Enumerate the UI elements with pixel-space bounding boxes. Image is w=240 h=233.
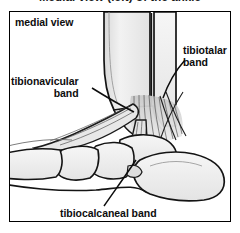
label-tibionavicular-line1: tibionavicular [11, 75, 79, 87]
label-tibiocalcaneal-band: tibiocalcaneal band [60, 208, 157, 220]
medial-ankle-figure: Medial view (left) of the ankle [0, 0, 240, 233]
label-tibiotalar-band: tibiotalar band [183, 45, 227, 68]
view-label: medial view [15, 17, 73, 29]
label-tibiotalar-line1: tibiotalar [183, 44, 227, 56]
calcaneus-bone [134, 152, 225, 201]
ankle-anatomy-illustration [0, 0, 240, 233]
label-tibiotalar-line2: band [183, 57, 227, 69]
plantar-sole-outline [0, 182, 146, 192]
label-tibionavicular-line2: band [11, 88, 79, 100]
metatarsal-bone [0, 149, 62, 180]
label-tibionavicular-band: tibionavicular band [11, 76, 79, 99]
cuneiform-bone [57, 146, 99, 180]
